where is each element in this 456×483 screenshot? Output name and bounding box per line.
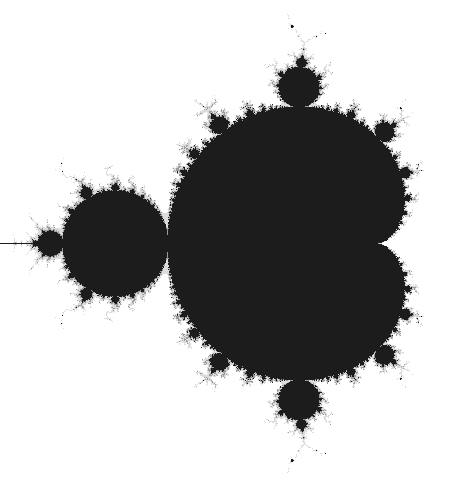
mandelbrot-fractal-image bbox=[0, 0, 456, 483]
